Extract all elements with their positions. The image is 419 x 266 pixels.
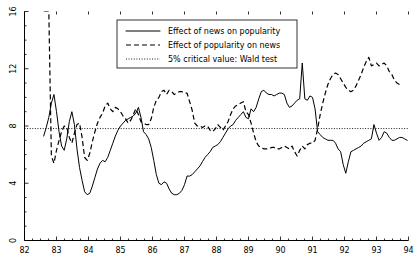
y-tick-label: 12	[9, 64, 18, 74]
x-tick-label: 92	[339, 246, 349, 255]
line-chart: 82838485868788899091929394 0481216 Effec…	[0, 0, 419, 266]
x-tick-label: 86	[147, 246, 157, 255]
chart-container: 82838485868788899091929394 0481216 Effec…	[0, 0, 419, 266]
y-tick-label: 16	[9, 6, 18, 16]
x-tick-label: 90	[275, 246, 285, 255]
x-tick-label: 85	[115, 246, 125, 255]
legend-label: Effect of popularity on news	[168, 41, 280, 50]
legend-label: Effect of news on popularity	[168, 27, 280, 36]
x-tick-label: 83	[51, 246, 61, 255]
x-tick-label: 94	[403, 246, 413, 255]
y-tick-label: 8	[9, 123, 18, 128]
x-tick-label: 82	[19, 246, 29, 255]
y-tick-label: 4	[9, 181, 18, 186]
x-tick-label: 87	[179, 246, 189, 255]
x-tick-label: 93	[371, 246, 381, 255]
x-tick-label: 89	[243, 246, 253, 255]
legend-label: 5% critical value: Wald test	[168, 55, 277, 64]
y-tick-label: 0	[9, 238, 18, 243]
chart-legend: Effect of news on popularityEffect of po…	[117, 20, 297, 68]
x-tick-label: 88	[211, 246, 221, 255]
x-tick-label: 84	[83, 246, 93, 255]
x-tick-label: 91	[307, 246, 317, 255]
